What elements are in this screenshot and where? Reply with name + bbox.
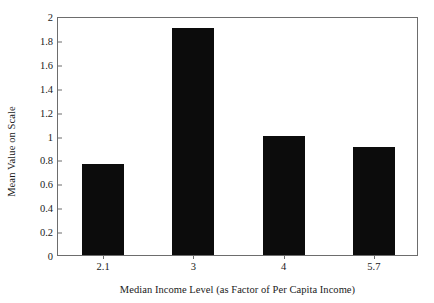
bar-series [58, 18, 417, 255]
y-tick-label: 1.6 [0, 61, 58, 72]
x-tick-label: 4 [281, 262, 286, 273]
x-tick-mark [374, 255, 375, 259]
x-axis-title: Median Income Level (as Factor of Per Ca… [57, 284, 418, 295]
bar-chart: Mean Value on Scale 00.20.40.60.811.21.4… [0, 0, 434, 303]
y-tick-label: 1.4 [0, 84, 58, 95]
x-tick-label: 5.7 [367, 262, 380, 273]
y-tick-label: 1.8 [0, 37, 58, 48]
y-tick-label: 2 [0, 13, 58, 24]
y-tick-label: 0.2 [0, 228, 58, 239]
x-tick-label: 3 [191, 262, 196, 273]
x-tick-mark [193, 255, 194, 259]
y-tick-label: 0.6 [0, 180, 58, 191]
bar [263, 136, 305, 256]
x-tick-mark [284, 255, 285, 259]
bar [172, 28, 214, 255]
y-tick-label: 0.4 [0, 204, 58, 215]
y-tick-label: 0.8 [0, 156, 58, 167]
x-tick-label: 2.1 [97, 262, 110, 273]
y-tick-label: 1 [0, 132, 58, 143]
x-tick-mark [103, 255, 104, 259]
bar [353, 147, 395, 255]
bar [82, 164, 124, 255]
plot-area: 00.20.40.60.811.21.41.61.82 2.1345.7 [57, 17, 418, 256]
y-tick-label: 0 [0, 252, 58, 263]
y-tick-label: 1.2 [0, 108, 58, 119]
